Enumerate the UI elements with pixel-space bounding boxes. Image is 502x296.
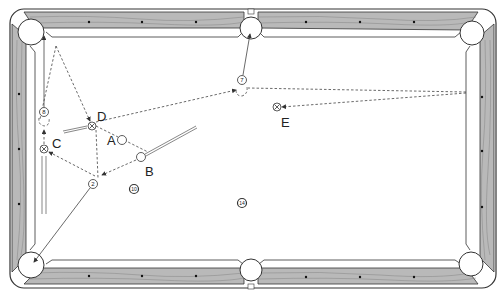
top-left-rail [24,12,244,30]
cue-ball-a [118,136,127,145]
ball-7: 7 [238,76,247,85]
pocket-bottom-left [18,252,44,278]
ball-10: 10 [130,185,139,194]
pocket-top-right [460,21,484,45]
bottom-left-rail [24,268,244,284]
top-right-rail [258,12,478,30]
label-b: B [145,164,154,179]
pool-table-diagram: 7 8 2 10 14 A B C D E [0,0,502,296]
target-x-icon-c [40,145,48,153]
ball-14: 14 [238,199,247,208]
ball-2: 2 [89,180,98,189]
ball-8: 8 [40,108,49,117]
pocket-top-left [18,19,44,45]
ball-14-number: 14 [239,200,245,206]
ball-10-number: 10 [131,186,137,192]
pocket-bottom-right [459,252,483,276]
target-x-icon-e [273,103,281,111]
target-x-icon-d [88,122,96,130]
label-a: A [107,133,116,148]
label-d: D [97,109,106,124]
pocket-bottom-middle [240,259,262,281]
pocket-top-middle [240,17,262,39]
cue-ball-b [137,153,146,162]
label-e: E [281,115,290,130]
table-frame [10,9,496,289]
label-c: C [52,136,61,151]
